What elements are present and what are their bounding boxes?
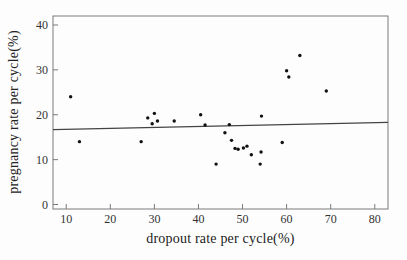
data-point [78,140,81,143]
data-point [236,148,239,151]
data-point [156,119,159,122]
data-point [146,116,149,119]
data-point [214,162,217,165]
data-point [150,122,153,125]
data-point [298,54,301,57]
x-tick-label: 40 [192,212,204,226]
x-tick-label: 60 [281,212,293,226]
y-tick-label: 10 [36,153,48,167]
data-point [69,95,72,98]
data-point [228,123,231,126]
data-point [233,147,236,150]
data-point [173,119,176,122]
data-point [325,89,328,92]
data-point [139,140,142,143]
data-point [230,139,233,142]
data-point [258,162,261,165]
x-tick-label: 80 [369,212,381,226]
data-point [242,146,245,149]
data-point [153,112,156,115]
y-tick-label: 20 [36,108,48,122]
x-tick-label: 10 [60,212,72,226]
plot-canvas: 1020304050607080010203040 [0,0,407,260]
x-axis-label: dropout rate per cycle(%) [53,231,388,247]
scatter-plot-figure: 1020304050607080010203040 dropout rate p… [0,0,407,260]
data-point [287,75,290,78]
data-point [260,114,263,117]
x-tick-label: 20 [104,212,116,226]
data-point [259,150,262,153]
y-tick-label: 30 [36,63,48,77]
data-point [285,69,288,72]
x-tick-label: 30 [148,212,160,226]
y-tick-label: 40 [36,18,48,32]
data-point [245,144,248,147]
x-tick-label: 50 [237,212,249,226]
data-point [281,141,284,144]
data-point [199,113,202,116]
y-tick-label: 0 [42,198,48,212]
fit-line [53,122,388,129]
data-point [203,123,206,126]
data-point [223,131,226,134]
y-axis-label: pregnancy rate per cycle(%) [6,1,22,223]
plot-frame [53,16,388,209]
data-point [250,153,253,156]
x-tick-label: 70 [325,212,337,226]
